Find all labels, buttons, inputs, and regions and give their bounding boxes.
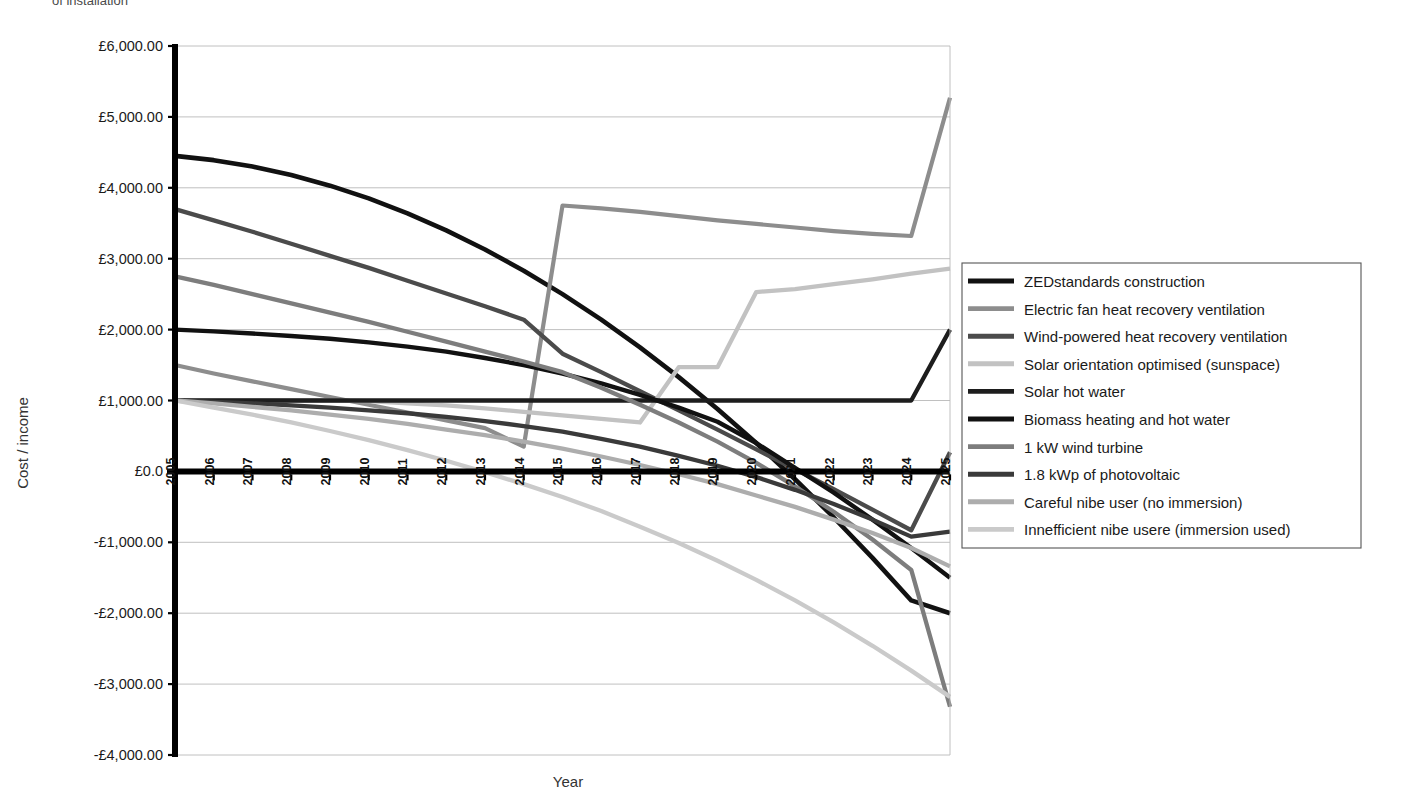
series-line-5 — [175, 330, 950, 578]
x-axis-title: Year — [553, 773, 583, 790]
x-tick-label: 2010 — [358, 458, 372, 486]
x-tick-label: 2020 — [745, 458, 759, 486]
x-tick-label: 2006 — [203, 458, 217, 486]
y-tick-label: -£1,000.00 — [94, 534, 163, 550]
legend-label-2: Wind-powered heat recovery ventilation — [1024, 328, 1287, 345]
x-tick-label: 2012 — [435, 458, 449, 486]
y-tick-label: £2,000.00 — [98, 322, 163, 338]
y-axis-title: Cost / income — [14, 397, 31, 489]
x-tick-label: 2018 — [668, 458, 682, 486]
x-tick-label: 2024 — [900, 458, 914, 486]
x-tick-label: 2021 — [784, 458, 798, 486]
x-tick-label: 2025 — [939, 458, 953, 486]
y-tick-label: -£3,000.00 — [94, 676, 163, 692]
x-tick-label: 2015 — [552, 458, 566, 486]
x-tick-label: 2013 — [474, 458, 488, 486]
y-tick-label: -£2,000.00 — [94, 605, 163, 621]
legend-label-4: Solar hot water — [1024, 383, 1125, 400]
legend-label-9: Innefficient nibe usere (immersion used) — [1024, 521, 1291, 538]
legend-label-5: Biomass heating and hot water — [1024, 411, 1230, 428]
y-tick-label: £6,000.00 — [98, 38, 163, 54]
y-tick-label: £0.0 — [135, 463, 163, 479]
x-tick-label: 2019 — [707, 458, 721, 486]
x-tick-label: 2005 — [164, 458, 178, 486]
legend-label-1: Electric fan heat recovery ventilation — [1024, 301, 1265, 318]
x-tick-labels-group: 2005200620072008200920102011201220132014… — [164, 458, 953, 486]
x-tick-label: 2016 — [590, 458, 604, 486]
y-tick-label: £4,000.00 — [98, 180, 163, 196]
legend-label-0: ZEDstandards construction — [1024, 273, 1205, 290]
legend-label-3: Solar orientation optimised (sunspace) — [1024, 356, 1280, 373]
x-tick-label: 2011 — [397, 458, 411, 485]
series-line-9 — [175, 401, 950, 697]
legend-label-8: Careful nibe user (no immersion) — [1024, 494, 1242, 511]
x-tick-label: 2017 — [629, 458, 643, 486]
chart-legend: ZEDstandards constructionElectric fan he… — [962, 263, 1361, 548]
y-tick-label: £5,000.00 — [98, 109, 163, 125]
y-tick-labels-group: £6,000.00£5,000.00£4,000.00£3,000.00£2,0… — [94, 38, 163, 763]
x-tick-label: 2007 — [242, 458, 256, 486]
x-tick-label: 2008 — [280, 458, 294, 486]
y-tick-label: £1,000.00 — [98, 393, 163, 409]
legend-label-6: 1 kW wind turbine — [1024, 439, 1143, 456]
series-line-1 — [175, 98, 950, 447]
series-line-0 — [175, 156, 950, 613]
series-lines-group — [175, 98, 950, 707]
x-tick-label: 2014 — [513, 458, 527, 486]
y-tick-label: -£4,000.00 — [94, 747, 163, 763]
x-tick-label: 2022 — [823, 458, 837, 486]
x-tick-label: 2023 — [862, 458, 876, 486]
legend-label-7: 1.8 kWp of photovoltaic — [1024, 466, 1180, 483]
x-tick-label: 2009 — [319, 458, 333, 486]
y-tick-label: £3,000.00 — [98, 251, 163, 267]
cost-income-line-chart: £6,000.00£5,000.00£4,000.00£3,000.00£2,0… — [0, 0, 1403, 806]
